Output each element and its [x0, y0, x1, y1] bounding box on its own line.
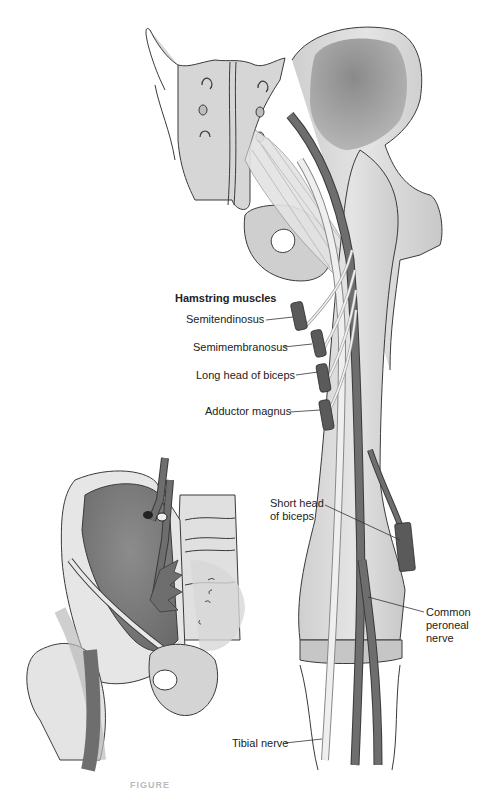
- leader-lines: [0, 0, 487, 792]
- common-peroneal-label-line3: nerve: [426, 632, 454, 645]
- semimembranosus-label: Semimembranosus: [193, 341, 288, 354]
- common-peroneal-label-line2: peroneal: [426, 619, 469, 632]
- long-head-biceps-label: Long head of biceps: [196, 369, 295, 382]
- common-peroneal-label-line1: Common: [426, 606, 471, 619]
- short-head-biceps-label-line1: Short head: [270, 497, 324, 510]
- adductor-magnus-label: Adductor magnus: [205, 405, 291, 418]
- short-head-biceps-label-line2: of biceps: [270, 510, 314, 523]
- figure-caption-partial: FIGURE: [130, 780, 170, 790]
- tibial-nerve-label: Tibial nerve: [232, 737, 288, 750]
